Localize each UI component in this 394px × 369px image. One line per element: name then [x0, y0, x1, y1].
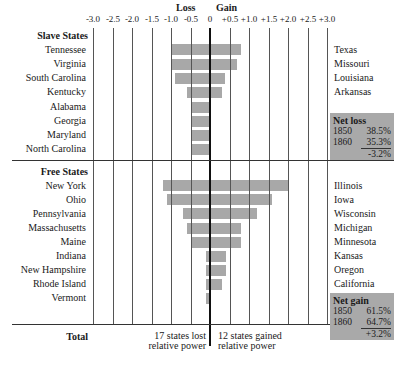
- total-rule: [12, 324, 330, 325]
- states-gained-text: 12 states gained relative power: [218, 331, 328, 351]
- state-label: Iowa: [334, 194, 354, 205]
- gridline: [93, 28, 94, 324]
- bar-pennsylvania-wisconsin: [183, 208, 257, 219]
- state-label: Indiana: [0, 250, 86, 261]
- share-value: 38.5%: [366, 126, 391, 137]
- gridline: [152, 28, 153, 324]
- bar-kentucky-arkansas: [187, 87, 222, 98]
- net-change-value: +3.2%: [361, 328, 391, 340]
- gridline: [269, 28, 270, 324]
- bar-ohio-iowa: [167, 194, 272, 205]
- state-label: Maryland: [0, 129, 86, 140]
- state-label: Missouri: [334, 58, 370, 69]
- state-label: Michigan: [334, 222, 372, 233]
- free-states-title: Free States: [0, 166, 88, 177]
- states-lost-text: 17 states lost relative power: [120, 331, 206, 351]
- share-value: 35.3%: [366, 137, 391, 148]
- year-label: 1860: [333, 317, 352, 328]
- gridline: [113, 28, 114, 324]
- gridline: [230, 28, 231, 324]
- zero-axis-extension: [209, 324, 211, 346]
- net-gain-title: Net gain: [333, 295, 391, 306]
- state-label: Alabama: [0, 101, 86, 112]
- section-divider: [12, 160, 394, 161]
- bar-north-carolina: [191, 144, 210, 155]
- bar-virginia-missouri: [171, 59, 237, 70]
- state-label: Minnesota: [334, 236, 376, 247]
- gridline: [288, 28, 289, 324]
- states-gained-line2: relative power: [218, 341, 328, 351]
- bar-massachusetts-michigan: [187, 223, 241, 234]
- state-label: Virginia: [0, 58, 86, 69]
- state-label: New Hampshire: [0, 264, 86, 275]
- share-value: 61.5%: [366, 306, 391, 317]
- net-gain-box: Net gain 185061.5% 186064.7% +3.2%: [330, 293, 394, 340]
- bar-maryland: [191, 130, 210, 141]
- state-label: Vermont: [0, 292, 86, 303]
- tick-label: +3.0: [314, 14, 340, 24]
- gridline: [308, 28, 309, 324]
- year-label: 1850: [333, 126, 352, 137]
- state-label: Arkansas: [334, 86, 371, 97]
- state-label: Georgia: [0, 115, 86, 126]
- net-change-value: -3.2%: [361, 148, 391, 160]
- zero-axis-line: [209, 28, 211, 324]
- state-label: Louisiana: [334, 72, 373, 83]
- bar-alabama: [191, 102, 210, 113]
- state-label: Pennsylvania: [0, 208, 86, 219]
- state-label: California: [334, 278, 375, 289]
- states-lost-line2: relative power: [120, 341, 206, 351]
- state-label: South Carolina: [0, 72, 86, 83]
- slave-states-title: Slave States: [0, 30, 88, 41]
- state-label: Ohio: [0, 194, 86, 205]
- state-label: Tennessee: [0, 44, 86, 55]
- state-label: Maine: [0, 236, 86, 247]
- year-label: 1850: [333, 306, 352, 317]
- state-label: Kentucky: [0, 86, 86, 97]
- gridline: [191, 28, 192, 324]
- gridline: [327, 28, 328, 324]
- state-label: Kansas: [334, 250, 363, 261]
- bar-georgia: [191, 116, 210, 127]
- gain-header: Gain: [216, 2, 237, 13]
- gridline: [249, 28, 250, 324]
- bar-maine-minnesota: [191, 237, 241, 248]
- share-value: 64.7%: [366, 317, 391, 328]
- state-label: North Carolina: [0, 143, 86, 154]
- net-loss-box: Net loss 185038.5% 186035.3% -3.2%: [330, 113, 394, 160]
- gridline: [171, 28, 172, 324]
- state-label: Illinois: [334, 180, 362, 191]
- net-loss-title: Net loss: [333, 115, 391, 126]
- state-label: Wisconsin: [334, 208, 376, 219]
- state-label: Massachusetts: [0, 222, 86, 233]
- state-label: Rhode Island: [0, 278, 86, 289]
- year-label: 1860: [333, 137, 352, 148]
- loss-header: Loss: [176, 2, 195, 13]
- state-label: Oregon: [334, 264, 364, 275]
- total-label: Total: [0, 331, 88, 342]
- gridline: [132, 28, 133, 324]
- state-label: Texas: [334, 44, 357, 55]
- bar-south-carolina-louisiana: [175, 73, 225, 84]
- state-label: New York: [0, 180, 86, 191]
